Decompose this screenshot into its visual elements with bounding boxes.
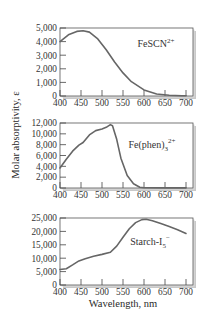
x-tick-label: 450 xyxy=(74,287,88,297)
x-tick-label: 700 xyxy=(179,98,193,108)
x-axis-label: Wavelength, nm xyxy=(60,298,186,309)
y-tick-label: 1,000 xyxy=(36,78,57,88)
y-tick-label: 4,000 xyxy=(36,162,57,172)
y-tick-label: 4,000 xyxy=(36,37,57,47)
x-tick-label: 500 xyxy=(95,287,109,297)
x-tick-label: 450 xyxy=(74,98,88,108)
y-tick-label: 10,000 xyxy=(31,254,57,264)
x-tick-label: 500 xyxy=(95,98,109,108)
y-tick-label: 12,000 xyxy=(31,118,57,128)
y-tick-label: 5,000 xyxy=(36,267,57,277)
y-tick-label: 15,000 xyxy=(31,240,57,250)
x-tick-label: 400 xyxy=(53,287,67,297)
y-tick-label: 5,000 xyxy=(36,23,57,33)
x-tick-label: 700 xyxy=(179,287,193,297)
y-tick-label: 20,000 xyxy=(31,227,57,237)
y-axis-label-text: Molar absorptivity, ε xyxy=(10,91,21,178)
x-tick-label: 550 xyxy=(116,98,130,108)
x-tick-label: 550 xyxy=(116,190,130,200)
x-tick-label: 450 xyxy=(74,190,88,200)
plot-frame xyxy=(60,123,193,188)
y-tick-label: 3,000 xyxy=(36,51,57,61)
x-tick-label: 500 xyxy=(95,190,109,200)
y-tick-label: 10,000 xyxy=(31,129,57,139)
x-tick-label: 700 xyxy=(179,190,193,200)
x-tick-label: 650 xyxy=(158,287,172,297)
x-tick-label: 400 xyxy=(53,190,67,200)
x-tick-label: 650 xyxy=(158,190,172,200)
chart-panel-2: 02,0004,0006,0008,00010,00012,0004004505… xyxy=(31,118,196,200)
x-tick-label: 550 xyxy=(116,287,130,297)
y-tick-label: 25,000 xyxy=(31,213,57,223)
x-tick-label: 600 xyxy=(137,287,151,297)
x-tick-label: 650 xyxy=(158,98,172,108)
x-tick-label: 600 xyxy=(137,98,151,108)
figure-canvas: 01,0002,0003,0004,0005,00040045050055060… xyxy=(0,0,208,315)
x-tick-label: 400 xyxy=(53,98,67,108)
y-tick-label: 2,000 xyxy=(36,64,57,74)
chart-panel-3: 05,00010,00015,00020,00025,0004004505005… xyxy=(31,213,196,297)
chart-panel-1: 01,0002,0003,0004,0005,00040045050055060… xyxy=(36,23,196,108)
x-tick-label: 600 xyxy=(137,190,151,200)
y-tick-label: 6,000 xyxy=(36,151,57,161)
y-tick-label: 8,000 xyxy=(36,140,57,150)
y-tick-label: 2,000 xyxy=(36,172,57,182)
